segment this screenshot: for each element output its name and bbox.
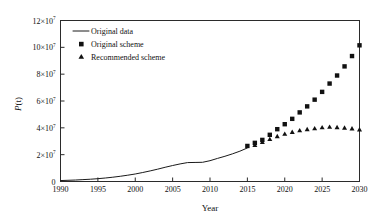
x-axis-ticks: 199019952000200520102015202020252030 (53, 178, 368, 195)
data-point-square (268, 133, 272, 137)
x-axis-title: Year (202, 203, 219, 213)
chart-figure: 02×1074×1076×1078×10710×10712×107 199019… (0, 0, 382, 219)
series-original-data (61, 148, 248, 181)
y-tick-label: 2×107 (36, 149, 56, 159)
data-point-square (283, 122, 287, 126)
data-point-triangle (305, 127, 310, 131)
data-point-triangle (275, 134, 280, 138)
data-point-square (245, 144, 249, 148)
data-point-square (290, 117, 294, 121)
x-tick-label: 2030 (352, 185, 368, 194)
data-point-square (275, 127, 279, 131)
y-tick-label: 10×107 (32, 42, 56, 52)
legend-item-original-scheme: Original scheme (79, 40, 144, 49)
legend-item-recommended-scheme: Recommended scheme (79, 53, 166, 62)
data-point-triangle (297, 128, 302, 132)
series-original-scheme (245, 43, 362, 148)
data-point-square (320, 90, 324, 94)
data-point-triangle (335, 125, 340, 129)
x-tick-label: 2010 (202, 185, 218, 194)
data-point-triangle (357, 127, 362, 131)
legend-square-icon (79, 42, 84, 47)
data-point-square (357, 43, 361, 47)
x-tick-label: 1990 (53, 185, 69, 194)
y-axis-title-rest: (t) (13, 97, 23, 106)
data-point-square (350, 54, 354, 58)
data-point-square (335, 73, 339, 77)
legend-triangle-icon (79, 54, 85, 59)
y-axis-ticks: 02×1074×1076×1078×10710×10712×107 (32, 15, 64, 186)
y-tick-label: 12×107 (32, 15, 56, 25)
legend-item-original-data: Original data (73, 27, 133, 36)
data-point-triangle (282, 131, 287, 135)
y-tick-label: 4×107 (36, 123, 56, 133)
data-point-triangle (320, 125, 325, 129)
data-point-triangle (327, 124, 332, 128)
x-tick-label: 2015 (239, 185, 255, 194)
data-point-triangle (350, 126, 355, 130)
data-point-triangle (342, 125, 347, 129)
legend-label-original-data: Original data (91, 27, 133, 36)
data-point-triangle (290, 130, 295, 134)
data-point-triangle (312, 126, 317, 130)
y-axis-title: P(t) (13, 97, 23, 112)
data-point-square (305, 104, 309, 108)
data-line-original (61, 148, 248, 181)
legend-label-original-scheme: Original scheme (91, 40, 144, 49)
y-tick-label: 6×107 (36, 96, 56, 106)
chart-canvas: 02×1074×1076×1078×10710×10712×107 199019… (0, 0, 382, 219)
x-tick-label: 2025 (314, 185, 330, 194)
data-point-square (342, 64, 346, 68)
svg-text:P(t): P(t) (13, 97, 23, 112)
legend-label-recommended-scheme: Recommended scheme (91, 53, 165, 62)
x-tick-label: 2020 (277, 185, 293, 194)
x-tick-label: 2000 (127, 185, 143, 194)
x-tick-label: 2005 (165, 185, 181, 194)
data-point-square (327, 81, 331, 85)
y-tick-label: 8×107 (36, 69, 56, 79)
data-point-square (298, 110, 302, 114)
x-tick-label: 1995 (90, 185, 106, 194)
chart-legend: Original data Original scheme Recommende… (73, 27, 165, 62)
data-point-square (312, 97, 316, 101)
data-point-triangle (267, 137, 272, 141)
